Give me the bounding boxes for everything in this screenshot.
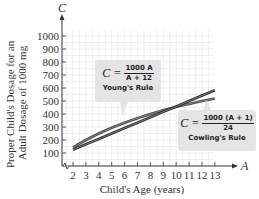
- cowling-fraction: 1000 (A + 1) 24: [202, 114, 253, 133]
- y-tick-label: 800: [43, 56, 60, 68]
- y-tick-label: 1000: [37, 30, 60, 42]
- y-tick-label: 600: [43, 82, 60, 94]
- x-tick-label: 12: [197, 169, 208, 181]
- young-rule-name: Young's Rule: [95, 84, 161, 92]
- x-tick-label: 9: [161, 169, 167, 181]
- x-tick-label: 7: [135, 169, 141, 181]
- young-denominator: A + 12: [126, 74, 152, 83]
- y-tick-label: 200: [43, 134, 60, 146]
- x-tick-label: 4: [96, 169, 102, 181]
- y-tick-label: 900: [43, 43, 60, 55]
- cowling-denominator: 24: [223, 124, 233, 133]
- young-fraction: 1000 A A + 12: [124, 64, 153, 83]
- y-tick-label: 500: [43, 95, 60, 107]
- y-tick-labels: 1002003004005006007008009001000: [37, 30, 60, 159]
- y-axis-variable: C: [58, 1, 67, 15]
- youngs-rule-label: C = 1000 A A + 12 Young's Rule: [95, 60, 161, 102]
- x-tick-labels: 2345678910111213: [70, 169, 221, 181]
- y-tick-label: 100: [43, 147, 60, 159]
- axis-break-icon: [63, 163, 69, 169]
- y-tick-label: 700: [43, 69, 60, 81]
- young-lhs: C =: [102, 66, 121, 81]
- cowlings-rule-label: C = 1000 (A + 1) 24 Cowling's Rule: [178, 110, 256, 151]
- x-tick-label: 13: [209, 169, 221, 181]
- x-tick-label: 3: [83, 169, 89, 181]
- x-axis-title: Child's Age (years): [100, 183, 185, 196]
- x-tick-label: 11: [184, 169, 195, 181]
- cowling-rule-name: Cowling's Rule: [178, 134, 256, 142]
- x-tick-label: 8: [148, 169, 154, 181]
- y-tick-label: 400: [43, 108, 60, 120]
- x-tick-label: 5: [109, 169, 115, 181]
- y-tick-label: 300: [43, 121, 60, 133]
- x-tick-label: 2: [70, 169, 76, 181]
- cowling-numerator: 1000 (A + 1): [202, 114, 253, 124]
- x-axis-arrow-icon: [232, 164, 238, 169]
- y-axis-title: Proper Child's Dosage for an Adult Dosag…: [4, 38, 28, 168]
- cowling-lhs: C =: [180, 116, 199, 131]
- x-tick-label: 6: [122, 169, 128, 181]
- x-axis-variable: A: [240, 159, 249, 173]
- young-numerator: 1000 A: [124, 64, 153, 74]
- x-tick-label: 10: [171, 169, 183, 181]
